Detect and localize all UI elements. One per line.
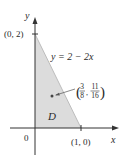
centroid-x-den: 8: [80, 91, 84, 100]
centroid-label: ( 3 8 , 11 16 ): [76, 82, 105, 101]
centroid-point: [51, 95, 54, 98]
origin-label: 0: [24, 133, 29, 143]
y-axis-arrow-icon: [33, 17, 38, 24]
svg-text:): ): [100, 84, 105, 101]
y-axis-label: y: [24, 10, 30, 21]
equation-label: y = 2 − 2x: [50, 51, 94, 62]
centroid-y-den: 16: [91, 91, 99, 100]
svg-text:,: ,: [86, 88, 88, 97]
y-intercept-label: (0, 2): [4, 29, 24, 39]
centroid-y-num: 11: [91, 82, 98, 91]
region-diagram: y (0, 2) y = 2 − 2x ( 3 8 , 11 16 ) D 0 …: [0, 0, 125, 161]
centroid-x-num: 3: [80, 82, 84, 91]
x-axis-label: x: [110, 134, 116, 145]
x-axis-arrow-icon: [112, 126, 119, 131]
x-intercept-label: (1, 0): [71, 137, 91, 147]
region-label: D: [47, 110, 56, 122]
